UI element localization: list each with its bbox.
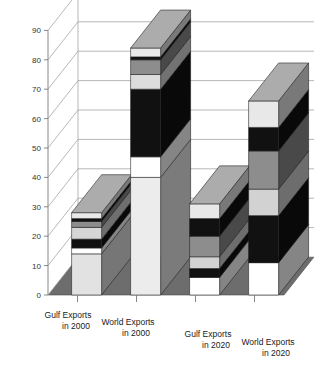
chart-canvas: 0102030405060708090 Gulf Exportsin 2000W…: [0, 0, 322, 368]
category-label-line: World Exports: [241, 337, 294, 347]
bar-stack: [131, 10, 191, 295]
category-label-line: in 2020: [202, 340, 230, 350]
category-label-line: Gulf Exports: [45, 310, 92, 320]
category-label: World Exportsin 2000: [101, 317, 154, 338]
category-label-line: Gulf Exports: [185, 329, 232, 339]
category-label-line: in 2000: [62, 321, 90, 331]
y-tick-label: 90: [32, 26, 41, 35]
y-tick-label: 40: [32, 173, 41, 182]
y-tick-label: 30: [32, 203, 41, 212]
y-tick-label: 20: [32, 232, 41, 241]
y-tick-label: 50: [32, 144, 41, 153]
stacked-column-chart-3d: 0102030405060708090 Gulf Exportsin 2000W…: [0, 0, 322, 368]
category-label-line: in 2000: [122, 328, 150, 338]
bar-stack: [249, 63, 309, 295]
category-label: Gulf Exportsin 2020: [185, 329, 232, 350]
y-tick-label: 60: [32, 115, 41, 124]
y-tick-label: 10: [32, 262, 41, 271]
chart-y-axis: [44, 30, 48, 295]
category-label-line: World Exports: [101, 317, 154, 327]
chart-category-ticks: [78, 295, 255, 302]
chart-y-tick-labels: 0102030405060708090: [32, 26, 41, 300]
y-tick-label: 80: [32, 56, 41, 65]
category-label-line: in 2020: [262, 348, 290, 358]
category-label: Gulf Exportsin 2000: [45, 310, 92, 331]
y-tick-label: 0: [37, 291, 42, 300]
chart-category-labels: Gulf Exportsin 2000World Exportsin 2000G…: [45, 310, 295, 358]
y-tick-label: 70: [32, 85, 41, 94]
category-label: World Exportsin 2020: [241, 337, 294, 358]
